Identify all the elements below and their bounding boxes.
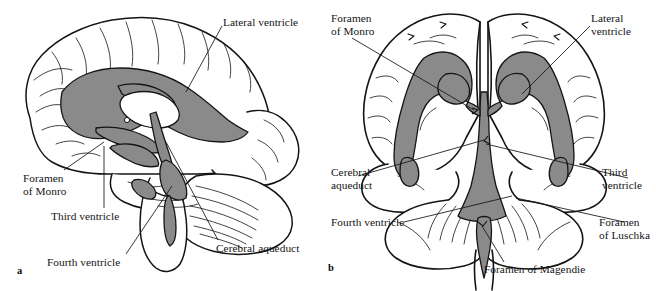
label-foramen-of-monro-a: Foramen of Monro bbox=[23, 172, 66, 197]
label-line-1: Foramen bbox=[599, 216, 640, 228]
label-foramen-of-monro-b: Foramen of Monro bbox=[331, 12, 374, 37]
label-lateral-ventricle-a: Lateral ventricle bbox=[223, 16, 298, 28]
label-line-2: of Monro bbox=[23, 185, 66, 197]
label-third-ventricle-b: Third ventricle bbox=[602, 166, 642, 191]
label-third-ventricle-a: Third ventricle bbox=[51, 210, 119, 222]
label-line-1: Lateral bbox=[591, 12, 623, 24]
label-line-2: of Monro bbox=[331, 25, 374, 37]
label-lateral-ventricle-b: Lateral ventricle bbox=[591, 12, 631, 37]
panel-key-a: a bbox=[17, 265, 22, 276]
label-foramen-of-magendie-b: Foramen of Magendie bbox=[484, 263, 585, 275]
medulla-outline bbox=[475, 250, 477, 290]
left-lateral-ventricle-inferior-tip bbox=[400, 157, 419, 186]
label-line-1: Foramen bbox=[23, 172, 64, 184]
label-line-2: aqueduct bbox=[331, 179, 372, 191]
label-line-2: of Luschka bbox=[599, 229, 650, 241]
panel-key-b: b bbox=[328, 262, 334, 273]
label-cerebral-aqueduct-a: Cerebral aqueduct bbox=[216, 242, 299, 254]
label-line-1: Third bbox=[602, 166, 627, 178]
panel-a-midsagittal-brain: Lateral ventricle Foramen of Monro Third… bbox=[0, 0, 328, 291]
label-cerebral-aqueduct-b: Cerebral aqueduct bbox=[331, 166, 372, 191]
label-line-2: ventricle bbox=[602, 179, 642, 191]
figure-container: Lateral ventricle Foramen of Monro Third… bbox=[0, 0, 656, 291]
interthalamic-adhesion bbox=[124, 117, 129, 122]
label-line-2: ventricle bbox=[591, 25, 631, 37]
label-line-1: Cerebral bbox=[331, 166, 370, 178]
label-fourth-ventricle-b: Fourth ventricle bbox=[331, 216, 404, 228]
panel-b-diagram bbox=[328, 0, 656, 291]
label-line-1: Foramen bbox=[331, 12, 372, 24]
panel-b-anterior-brain: Foramen of Monro Lateral ventricle Cereb… bbox=[328, 0, 656, 291]
label-foramen-of-luschka-b: Foramen of Luschka bbox=[599, 216, 650, 241]
label-fourth-ventricle-a: Fourth ventricle bbox=[47, 256, 120, 268]
